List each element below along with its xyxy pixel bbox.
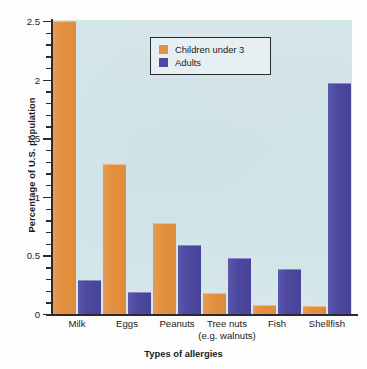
bar-peanuts-adults — [178, 245, 201, 314]
y-tick-major — [43, 197, 52, 198]
y-tick-label: 1.5 — [0, 133, 40, 144]
legend-swatch-adults-icon — [159, 58, 168, 67]
legend-item-children: Children under 3 — [159, 43, 263, 56]
bar-tree-nuts-children — [203, 293, 226, 314]
y-tick-minor — [46, 220, 52, 221]
chart-legend: Children under 3 Adults — [150, 37, 271, 75]
y-tick-minor — [46, 126, 52, 127]
y-tick-label: 0 — [0, 309, 40, 320]
x-tick-sublabel: (e.g. walnuts) — [190, 330, 264, 342]
y-tick-minor — [46, 279, 52, 280]
x-tick-label-shellfish: Shellfish — [290, 318, 364, 330]
y-tick-minor — [46, 33, 52, 34]
bar-chart-figure: Percentage of U.S. population 00.511.522… — [0, 0, 367, 369]
y-tick-minor — [46, 150, 52, 151]
y-tick-minor — [46, 185, 52, 186]
y-tick-minor — [46, 267, 52, 268]
legend-item-adults: Adults — [159, 56, 263, 69]
bar-milk-children — [53, 21, 76, 314]
y-tick-minor — [46, 103, 52, 104]
bar-fish-children — [253, 305, 276, 314]
y-tick-label: 2.5 — [0, 16, 40, 27]
legend-label-adults: Adults — [175, 57, 201, 68]
y-axis-title: Percentage of U.S. population — [27, 55, 37, 275]
bar-peanuts-children — [153, 223, 176, 314]
y-tick-minor — [46, 115, 52, 116]
y-tick-major — [43, 21, 52, 22]
legend-swatch-children-icon — [159, 45, 168, 54]
y-tick-minor — [46, 244, 52, 245]
x-axis-title: Types of allergies — [0, 348, 367, 359]
legend-label-children: Children under 3 — [175, 44, 244, 55]
y-tick-minor — [46, 91, 52, 92]
y-tick-label: 0.5 — [0, 250, 40, 261]
bar-eggs-adults — [128, 292, 151, 314]
y-tick-major — [43, 314, 52, 315]
bar-tree-nuts-adults — [228, 258, 251, 314]
bar-milk-adults — [78, 280, 101, 314]
bar-shellfish-children — [303, 306, 326, 314]
x-axis-line — [46, 314, 358, 316]
y-tick-minor — [46, 209, 52, 210]
y-tick-minor — [46, 173, 52, 174]
y-tick-minor — [46, 232, 52, 233]
y-tick-major — [43, 80, 52, 81]
bar-fish-adults — [278, 269, 301, 314]
y-tick-major — [43, 138, 52, 139]
y-tick-label: 1 — [0, 191, 40, 202]
y-tick-minor — [46, 302, 52, 303]
y-tick-minor — [46, 56, 52, 57]
y-tick-minor — [46, 162, 52, 163]
y-tick-major — [43, 255, 52, 256]
y-tick-minor — [46, 68, 52, 69]
bar-shellfish-adults — [328, 83, 351, 314]
y-tick-label: 2 — [0, 74, 40, 85]
y-tick-minor — [46, 291, 52, 292]
y-tick-minor — [46, 44, 52, 45]
bar-eggs-children — [103, 164, 126, 314]
